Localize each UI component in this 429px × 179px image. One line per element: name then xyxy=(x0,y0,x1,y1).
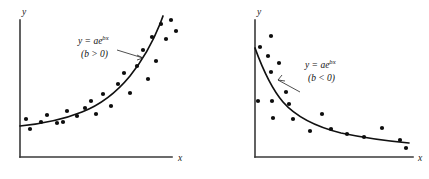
data-point xyxy=(345,132,349,136)
data-point xyxy=(109,104,113,108)
data-point xyxy=(146,77,150,81)
data-point xyxy=(256,99,260,103)
data-point xyxy=(291,117,295,121)
data-point xyxy=(28,127,32,131)
exponential-growth-svg: y x y = aebx (b > 0) xyxy=(0,0,214,179)
data-point xyxy=(45,113,49,117)
data-point xyxy=(329,127,333,131)
data-point xyxy=(271,116,275,120)
y-axis-label: y xyxy=(256,7,262,17)
data-point xyxy=(398,138,402,142)
data-point xyxy=(258,45,262,49)
data-point xyxy=(174,29,178,33)
data-point xyxy=(287,102,291,106)
data-point xyxy=(266,54,270,58)
equation-exponent: bx xyxy=(102,34,108,41)
data-point xyxy=(169,18,173,22)
data-point xyxy=(164,37,168,41)
data-point xyxy=(122,71,126,75)
equation-base: y = aebx xyxy=(77,34,109,46)
chart-panel-exponential-growth: y x y = aebx (b > 0) xyxy=(0,0,214,179)
figure-root: y x y = aebx (b > 0) xyxy=(0,0,429,179)
data-point xyxy=(320,112,324,116)
annotation-leader-line xyxy=(278,80,300,92)
data-point xyxy=(55,121,59,125)
equation-exponent: bx xyxy=(329,58,335,65)
equation-base: y = aebx xyxy=(304,58,336,70)
data-point xyxy=(65,109,69,113)
data-point xyxy=(154,59,158,63)
data-point xyxy=(75,114,79,118)
data-point xyxy=(94,112,98,116)
x-axis-label: x xyxy=(417,153,423,163)
annotation-arrowhead-icon xyxy=(278,75,285,81)
equation-annotation-growth: y = aebx (b > 0) xyxy=(77,34,109,60)
axes-group xyxy=(255,20,413,157)
data-point xyxy=(116,82,120,86)
fit-curve-growth xyxy=(20,16,163,126)
chart-panel-exponential-decay: y x y = aebx (b < 0) xyxy=(215,0,429,179)
data-point xyxy=(308,129,312,133)
exponential-decay-svg: y x y = aebx (b < 0) xyxy=(215,0,429,179)
data-point xyxy=(61,120,65,124)
data-point xyxy=(380,126,384,130)
data-point xyxy=(284,90,288,94)
data-point xyxy=(159,22,163,26)
x-axis-label: x xyxy=(177,153,183,163)
data-point xyxy=(89,99,93,103)
equation-condition: (b < 0) xyxy=(308,73,335,84)
data-point xyxy=(270,99,274,103)
data-point xyxy=(269,70,273,74)
data-point xyxy=(404,146,408,150)
data-point xyxy=(150,35,154,39)
data-point xyxy=(101,92,105,96)
equation-annotation-decay: y = aebx (b < 0) xyxy=(304,58,336,84)
annotation-leader-line xyxy=(117,50,143,58)
data-point xyxy=(83,106,87,110)
data-point xyxy=(269,34,273,38)
y-axis-label: y xyxy=(21,7,27,17)
data-point xyxy=(362,135,366,139)
data-point xyxy=(141,48,145,52)
equation-condition: (b > 0) xyxy=(81,49,108,60)
scatter-points-decay xyxy=(256,34,408,150)
data-point xyxy=(128,91,132,95)
data-point xyxy=(277,61,281,65)
data-point xyxy=(135,64,139,68)
data-point xyxy=(39,120,43,124)
data-point xyxy=(24,117,28,121)
